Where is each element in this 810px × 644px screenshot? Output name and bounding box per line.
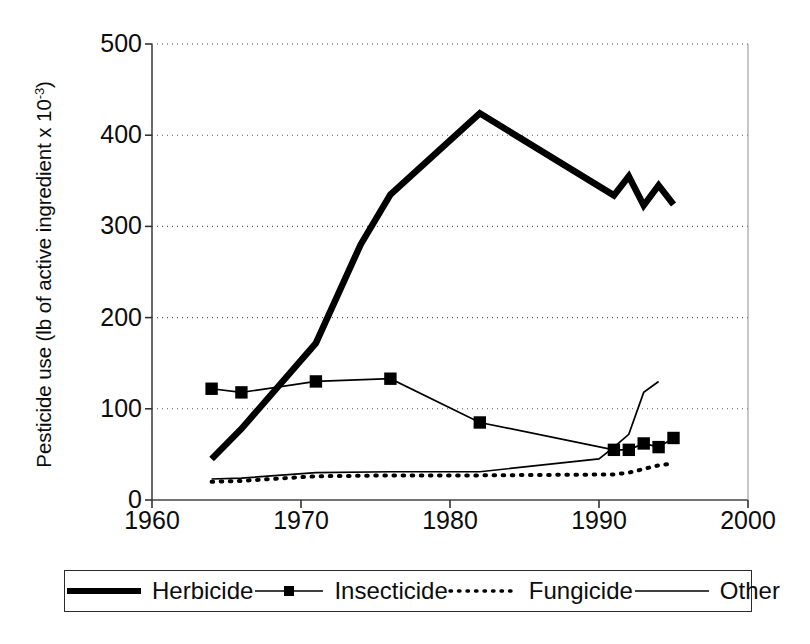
data-point-marker [310,375,322,387]
data-point-marker [235,386,247,398]
data-point-marker [667,432,679,444]
gridlines [152,44,748,409]
line-square-marker-swatch [253,582,325,600]
legend-item-other[interactable]: Other [633,579,780,603]
series-other [212,381,659,479]
pesticide-use-line-chart: Pesticide use (lb of active ingredient x… [0,0,810,644]
legend-item-herbicide[interactable]: Herbicide [65,579,253,603]
legend-label: Other [720,579,780,603]
plot-area [0,0,810,644]
chart-legend: Herbicide Insecticide Fungicide Other [64,570,752,612]
thin-line-swatch [633,582,711,600]
series-fungicide [212,464,674,482]
legend-label: Insecticide [334,579,447,603]
legend-label: Herbicide [152,579,253,603]
data-point-marker [623,444,635,456]
legend-label: Fungicide [529,579,633,603]
thick-line-swatch [65,582,143,600]
legend-item-insecticide[interactable]: Insecticide [253,579,447,603]
data-point-marker [652,441,664,453]
data-point-marker [205,383,217,395]
dotted-line-swatch [448,582,520,600]
series-herbicide [212,113,674,459]
data-point-marker [638,437,650,449]
legend-item-fungicide[interactable]: Fungicide [448,579,633,603]
data-series-layer [205,113,679,481]
data-point-marker [384,373,396,385]
data-point-marker [474,416,486,428]
